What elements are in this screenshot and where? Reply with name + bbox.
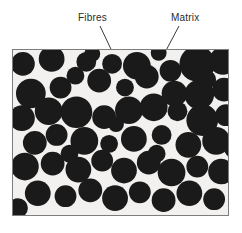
fibre-circle <box>46 124 68 146</box>
fibre-circle <box>87 69 111 93</box>
fibre-circle <box>176 180 202 206</box>
fibre-circle <box>160 60 182 82</box>
fibre-circle <box>23 131 47 155</box>
fibre-circle <box>186 156 208 178</box>
fibre-circle <box>78 178 102 202</box>
fibre-circle <box>198 71 216 89</box>
fibre-circle <box>102 185 128 211</box>
fibre-circle <box>108 116 124 132</box>
fibre-circle <box>168 101 188 121</box>
fibre-circle <box>121 126 147 152</box>
fibre-circle <box>61 96 93 128</box>
fibre-circle <box>140 93 168 121</box>
composite-microstructure-figure: Fibres Matrix <box>0 0 242 233</box>
fibre-circle <box>35 97 63 125</box>
micrograph-frame <box>12 49 229 216</box>
fibre-circle <box>67 67 85 85</box>
fibre-circle <box>135 65 159 89</box>
fibre-circle <box>61 145 79 163</box>
fibre-circle <box>116 79 134 97</box>
fibre-circle <box>158 159 186 187</box>
fibres-label: Fibres <box>78 13 107 23</box>
fibre-circle <box>91 150 113 172</box>
fibre-cross-section-canvas <box>13 50 228 215</box>
fibre-circle <box>129 181 151 203</box>
fibre-circle <box>203 188 225 210</box>
fibre-circle <box>111 158 137 184</box>
fibre-circle <box>148 145 166 163</box>
matrix-label: Matrix <box>171 13 199 23</box>
fibre-circle <box>25 180 51 206</box>
fibre-circle <box>152 125 172 145</box>
fibre-circle <box>175 132 201 158</box>
fibre-circle <box>55 185 77 207</box>
fibre-circle <box>152 188 176 212</box>
